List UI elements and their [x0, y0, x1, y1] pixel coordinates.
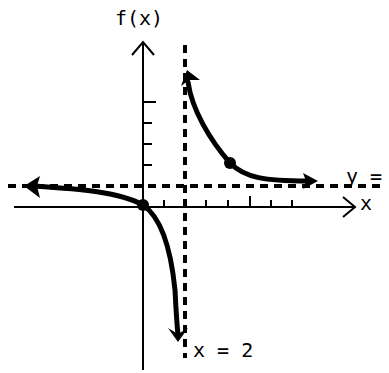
function-graph — [0, 0, 389, 373]
y-axis-label: f(x) — [115, 8, 163, 28]
x-axis-label: x — [360, 193, 372, 213]
horizontal-asymptote-label: y = — [346, 166, 382, 186]
y-axis-ticks — [143, 102, 156, 165]
right-branch-point — [224, 157, 236, 169]
right-branch-curve — [181, 70, 318, 189]
origin-point — [137, 199, 149, 211]
vertical-asymptote-label: x = 2 — [193, 340, 253, 360]
